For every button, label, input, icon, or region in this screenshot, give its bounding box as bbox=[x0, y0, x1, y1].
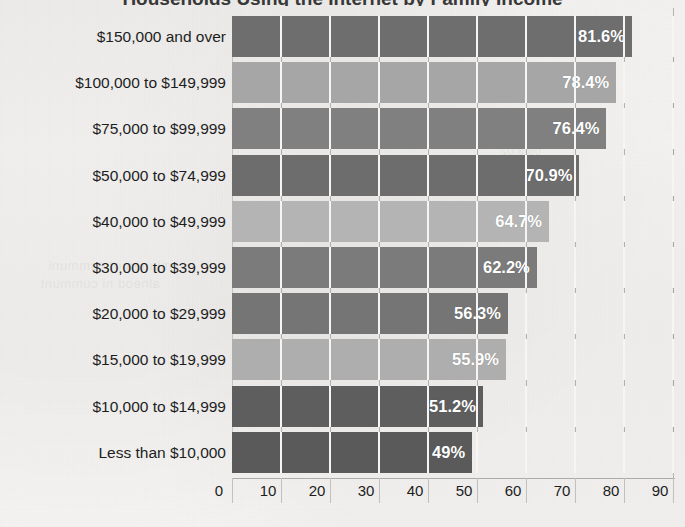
tick-mark bbox=[624, 478, 625, 503]
bar: 49% bbox=[232, 432, 472, 473]
bar-row: $50,000 to $74,99970.9% bbox=[0, 155, 685, 196]
bar: 56.3% bbox=[232, 293, 508, 334]
bar-value-label: 49% bbox=[432, 432, 465, 473]
bar-row: $75,000 to $99,99976.4% bbox=[0, 108, 685, 149]
category-label: $10,000 to $14,999 bbox=[92, 386, 226, 427]
bar-row: $30,000 to $39,99962.2% bbox=[0, 247, 685, 288]
tick-mark bbox=[232, 478, 233, 503]
x-axis: 0102030405060708090 bbox=[0, 478, 685, 527]
bar: 78.4% bbox=[232, 62, 616, 103]
x-axis-tick-label: 20 bbox=[309, 482, 326, 499]
category-label: $75,000 to $99,999 bbox=[92, 108, 226, 149]
x-axis-tick-label: 30 bbox=[358, 482, 375, 499]
x-axis-tick-label: 60 bbox=[505, 482, 522, 499]
bar: 62.2% bbox=[232, 247, 537, 288]
tick-mark bbox=[330, 478, 331, 503]
bar-value-label: 78.4% bbox=[562, 62, 609, 103]
tick-mark bbox=[526, 478, 527, 503]
bar-value-label: 81.6% bbox=[578, 16, 625, 57]
tick-mark bbox=[379, 478, 380, 503]
bar-value-label: 56.3% bbox=[454, 293, 501, 334]
category-label: $15,000 to $19,999 bbox=[92, 339, 226, 380]
bar-row: $100,000 to $149,99978.4% bbox=[0, 62, 685, 103]
bar-value-label: 64.7% bbox=[495, 201, 542, 242]
x-axis-line bbox=[232, 478, 675, 479]
x-axis-tick-label: 50 bbox=[456, 482, 473, 499]
bar-value-label: 55.9% bbox=[452, 339, 499, 380]
bar-row: $20,000 to $29,99956.3% bbox=[0, 293, 685, 334]
bar-value-label: 51.2% bbox=[429, 386, 476, 427]
category-label: $150,000 and over bbox=[97, 16, 226, 57]
x-axis-tick-label: 90 bbox=[652, 482, 669, 499]
bar: 64.7% bbox=[232, 201, 549, 242]
bar: 70.9% bbox=[232, 155, 579, 196]
bar: 55.9% bbox=[232, 339, 506, 380]
bar-row: $10,000 to $14,99951.2% bbox=[0, 386, 685, 427]
bar-row: $150,000 and over81.6% bbox=[0, 16, 685, 57]
x-axis-tick-label: 0 bbox=[215, 482, 223, 499]
bar-value-label: 70.9% bbox=[526, 155, 573, 196]
category-label: $50,000 to $74,999 bbox=[92, 155, 226, 196]
category-label: $30,000 to $39,999 bbox=[92, 247, 226, 288]
bar: 51.2% bbox=[232, 386, 483, 427]
category-label: Less than $10,000 bbox=[98, 432, 226, 473]
tick-mark bbox=[428, 478, 429, 503]
tick-mark bbox=[673, 478, 674, 503]
category-label: $40,000 to $49,999 bbox=[92, 201, 226, 242]
tick-mark bbox=[477, 478, 478, 503]
bar: 81.6% bbox=[232, 16, 632, 57]
x-axis-tick-label: 40 bbox=[407, 482, 424, 499]
bar: 76.4% bbox=[232, 108, 606, 149]
bar-row: $40,000 to $49,99964.7% bbox=[0, 201, 685, 242]
category-label: $100,000 to $149,999 bbox=[75, 62, 226, 103]
x-axis-tick-label: 10 bbox=[260, 482, 277, 499]
bar-chart: $150,000 and over81.6%$100,000 to $149,9… bbox=[0, 0, 685, 527]
tick-mark bbox=[575, 478, 576, 503]
x-axis-tick-label: 80 bbox=[603, 482, 620, 499]
category-label: $20,000 to $29,999 bbox=[92, 293, 226, 334]
x-axis-tick-label: 70 bbox=[554, 482, 571, 499]
bar-value-label: 62.2% bbox=[483, 247, 530, 288]
bar-row: $15,000 to $19,99955.9% bbox=[0, 339, 685, 380]
bar-value-label: 76.4% bbox=[553, 108, 600, 149]
bar-row: Less than $10,00049% bbox=[0, 432, 685, 473]
tick-mark bbox=[281, 478, 282, 503]
